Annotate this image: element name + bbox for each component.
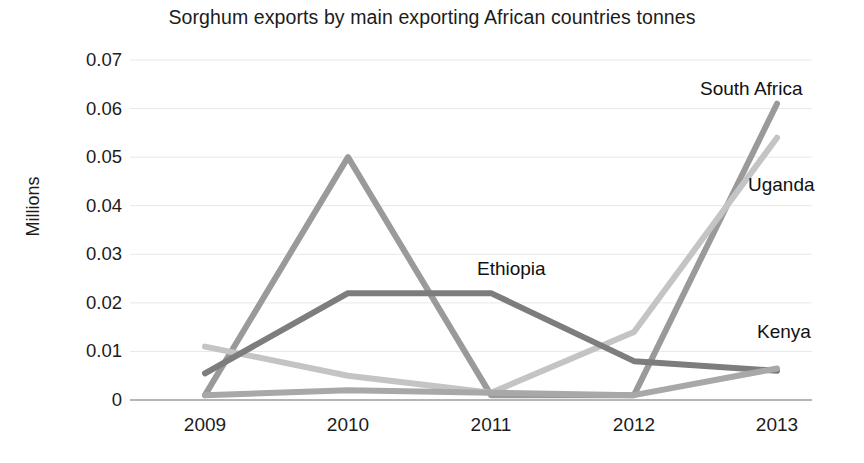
series-label-kenya: Kenya [757, 321, 811, 343]
series-label-ethiopia: Ethiopia [477, 258, 546, 280]
series-label-uganda: Uganda [748, 174, 815, 196]
series-line-kenya [205, 368, 777, 395]
plot-area [0, 0, 864, 463]
series-label-south-africa: South Africa [700, 78, 802, 100]
line-chart: Sorghum exports by main exporting Africa… [0, 0, 864, 463]
